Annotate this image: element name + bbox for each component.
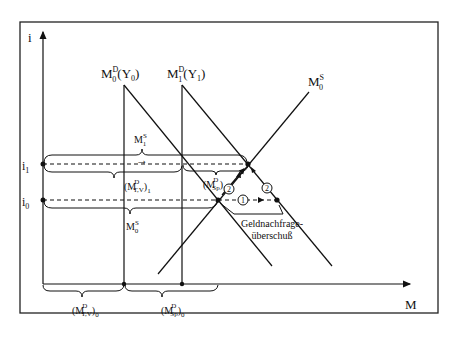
excess-demand-label-line2: überschuß: [251, 230, 292, 241]
excess-demand-label-line1: Geldnachfrage-: [241, 218, 303, 229]
brace-msp-0: [125, 285, 218, 297]
label-money-supply-0: MS0: [308, 73, 324, 92]
label-mtv-0: (MDT,V)0: [72, 302, 99, 319]
excess-demand-bracket: [220, 203, 283, 214]
tick-i1: i1: [22, 159, 29, 175]
brace-m0-supply: [44, 201, 217, 214]
label-msp-1: (MDSp)1: [203, 176, 227, 193]
label-m0-supply: MS0: [126, 219, 139, 235]
step-1-marker: 1: [238, 195, 248, 205]
brace-mtv-1: [44, 165, 182, 178]
money-supply-curve: [158, 92, 309, 274]
svg-text:2: 2: [265, 184, 269, 193]
equilibrium-point-0: [215, 197, 220, 202]
x-axis-label: M: [405, 297, 417, 312]
svg-text:i0: i0: [22, 195, 29, 211]
label-money-demand-0: MD0(Y0): [101, 65, 139, 84]
money-market-diagram: i M i1 i0 MD0(Y0) MD1(Y1) MS0 MS1 →: [0, 0, 456, 338]
shift-arrow: →: [136, 153, 148, 167]
step-2-arrowhead-demand: [251, 167, 256, 173]
equilibrium-point-1: [245, 161, 250, 166]
label-money-demand-1: MD1(Y1): [167, 65, 205, 84]
step-2-marker-demand: 2: [262, 183, 272, 193]
label-msp-0: (MDSp)0: [161, 302, 185, 319]
y-axis-label: i: [28, 30, 32, 45]
excess-demand-point: [274, 197, 279, 202]
label-m1-supply: MS1: [134, 132, 147, 148]
svg-text:2: 2: [227, 185, 231, 194]
tick-i0: i0: [22, 195, 29, 211]
svg-text:1: 1: [241, 196, 245, 205]
svg-text:i1: i1: [22, 159, 29, 175]
step-2-marker-supply: 2: [224, 184, 234, 194]
point-m-sp0: [180, 282, 184, 286]
label-mtv-1: (MDT,V)1: [124, 178, 151, 195]
step-1-arrowhead: [258, 197, 264, 203]
step-2-arrowhead-supply: [236, 171, 241, 178]
frame-border: [20, 22, 438, 313]
brace-mtv-0: [43, 285, 124, 297]
